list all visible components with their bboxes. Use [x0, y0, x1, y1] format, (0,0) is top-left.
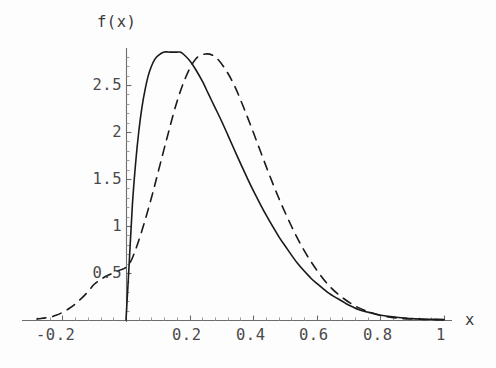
chart-figure: f(x) x -0.20.20.40.60.812.521.510.5 — [0, 0, 496, 368]
data-series-solid — [126, 52, 444, 320]
x-tick-label: 0.4 — [236, 326, 266, 344]
x-tick-label: 0.8 — [363, 326, 393, 344]
x-tick-label: 0.2 — [172, 326, 202, 344]
x-tick-label: -0.2 — [36, 326, 75, 344]
y-axis-title: f(x) — [97, 13, 136, 31]
x-tick-label: 0.6 — [299, 326, 329, 344]
x-tick-label: 1 — [436, 326, 446, 344]
x-axis-title: x — [465, 311, 475, 329]
y-tick-label: 2 — [112, 123, 122, 141]
y-tick-label: 0.5 — [93, 264, 123, 282]
y-tick-label: 1.5 — [93, 170, 123, 188]
plot-canvas — [0, 0, 496, 368]
y-tick-label: 1 — [112, 217, 122, 235]
axes-group — [22, 48, 452, 322]
y-tick-label: 2.5 — [93, 76, 123, 94]
